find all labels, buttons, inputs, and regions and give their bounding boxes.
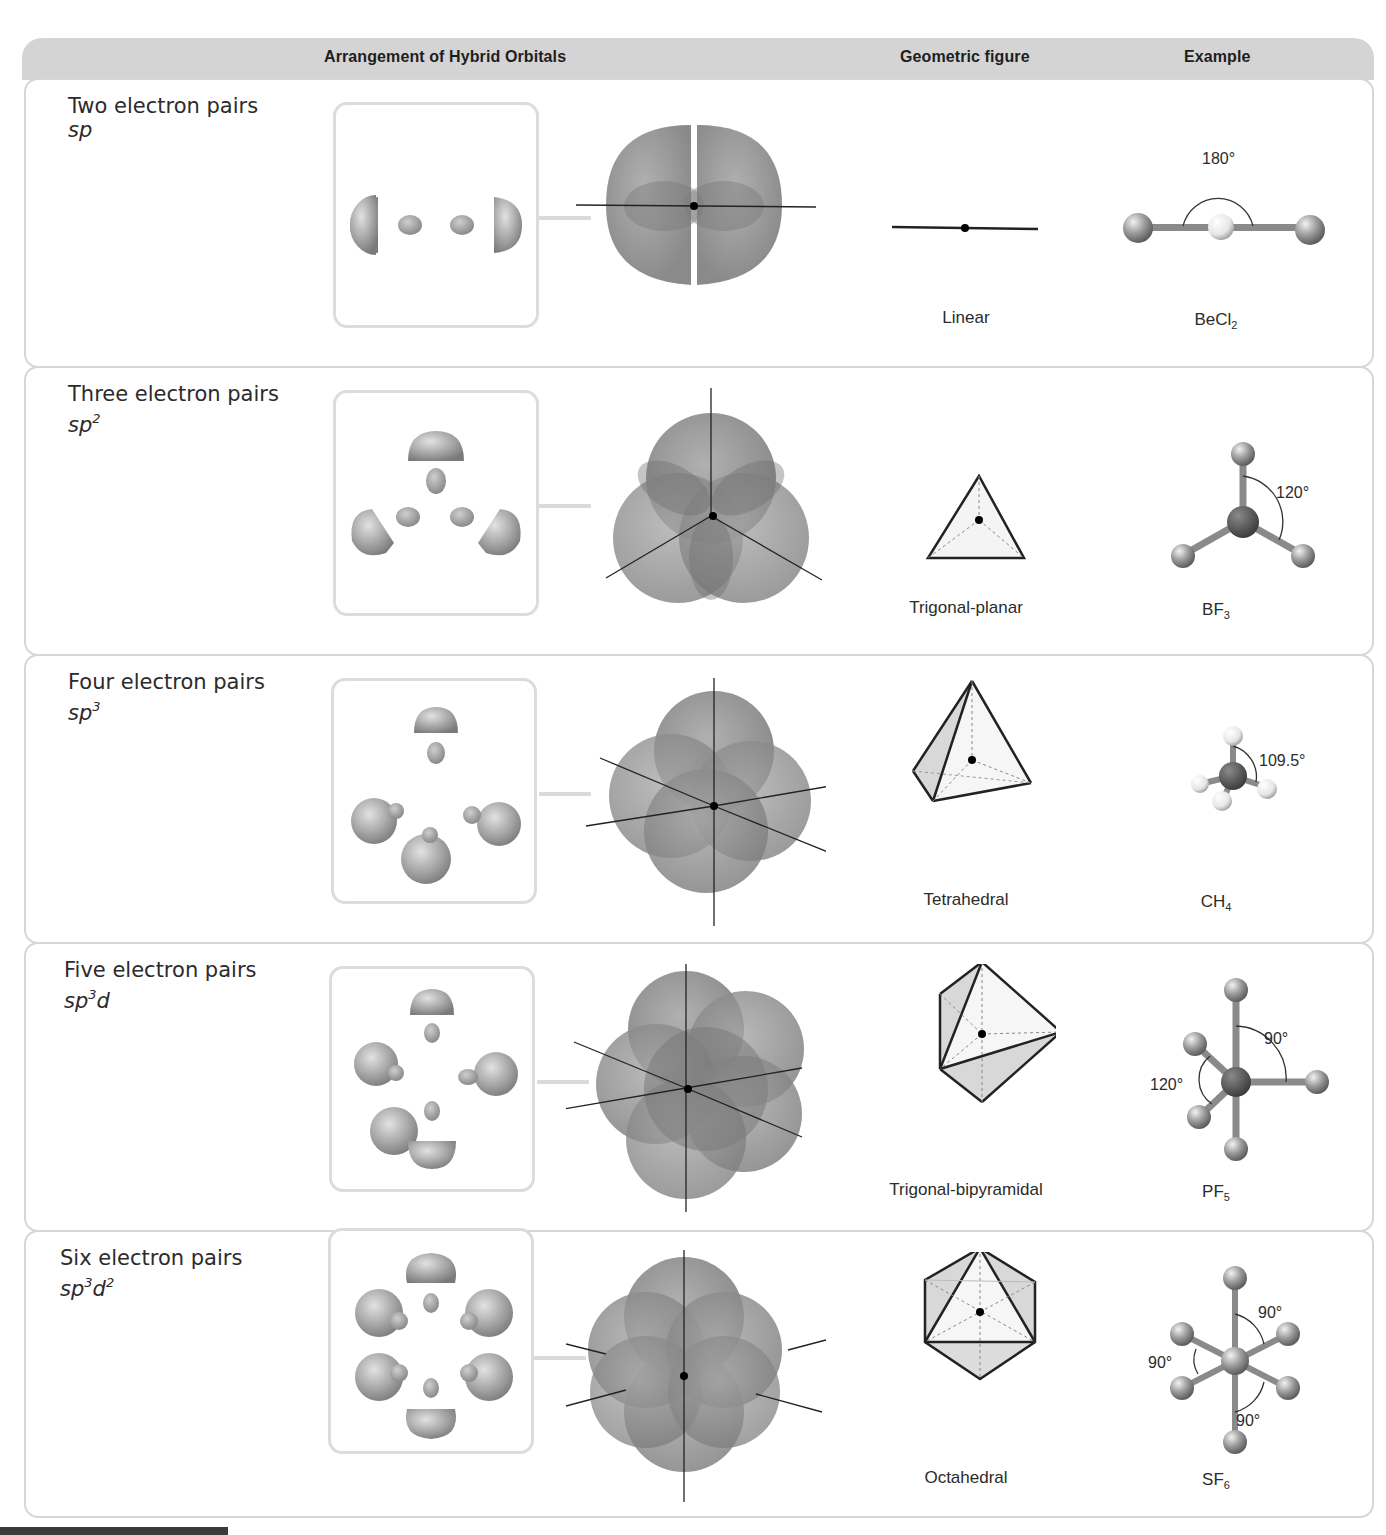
separate-orbitals-panel (331, 678, 537, 904)
svg-text:90°: 90° (1236, 1412, 1260, 1429)
combined-hybrid-orbitals (566, 1232, 826, 1522)
example-formula: BF3 (1126, 600, 1306, 621)
ch4-molecule-icon: 109.5° (1116, 676, 1336, 906)
row-sp3d2: Six electron pairs sp3d2 (24, 1230, 1374, 1518)
sp3d-hybrid-combined-icon (566, 944, 826, 1234)
svg-text:90°: 90° (1148, 1354, 1172, 1371)
sp2-orbital-lobes-icon (336, 393, 536, 613)
example-molecule: 90° 120° (1116, 964, 1336, 1194)
combined-hybrid-orbitals (566, 656, 826, 946)
geometry-label: Tetrahedral (846, 890, 1086, 910)
separate-orbitals-panel (329, 966, 535, 1192)
table-header: Arrangement of Hybrid Orbitals Geometric… (22, 38, 1374, 80)
row-sp: Two electron pairs sp Linear (24, 78, 1374, 368)
trigonal-planar-geometry-icon (876, 388, 1056, 618)
row-title: Four electron pairs (68, 670, 265, 695)
row-title: Six electron pairs (60, 1246, 242, 1271)
footer-label-tab (0, 1527, 228, 1535)
sp3d2-orbital-lobes-icon (331, 1231, 531, 1451)
svg-text:180°: 180° (1202, 150, 1235, 167)
svg-text:90°: 90° (1264, 1030, 1288, 1047)
example-molecule: 90° 90° 90° (1116, 1252, 1336, 1482)
example-formula: CH4 (1126, 892, 1306, 913)
sf6-molecule-icon: 90° 90° 90° (1116, 1252, 1336, 1482)
separate-orbitals-panel (328, 1228, 534, 1454)
bf3-molecule-icon: 120° (1116, 388, 1336, 618)
geometric-figure (876, 964, 1056, 1194)
sp2-hybrid-combined-icon (566, 368, 826, 658)
example-formula: PF5 (1126, 1182, 1306, 1203)
svg-text:90°: 90° (1258, 1304, 1282, 1321)
hybridization-label: sp3d (64, 982, 110, 1014)
geometry-label: Linear (846, 308, 1086, 328)
separate-orbitals-panel (333, 102, 539, 328)
geometric-figure (876, 1252, 1056, 1482)
geometry-label: Trigonal-bipyramidal (846, 1180, 1086, 1200)
hybridization-label: sp (68, 118, 92, 143)
sp-hybrid-combined-icon (566, 80, 826, 370)
sp-orbital-lobes-icon (336, 105, 536, 325)
combined-hybrid-orbitals (566, 944, 826, 1234)
header-example: Example (1184, 48, 1251, 66)
combined-hybrid-orbitals (566, 80, 826, 370)
geometric-figure (876, 676, 1056, 906)
geometry-label: Octahedral (846, 1468, 1086, 1488)
svg-text:120°: 120° (1150, 1076, 1183, 1093)
sp3d-orbital-lobes-icon (332, 969, 532, 1189)
hybridization-label: sp3d2 (60, 1270, 114, 1302)
row-sp3d: Five electron pairs sp3d (24, 942, 1374, 1232)
tetrahedral-geometry-icon (876, 676, 1056, 906)
header-geometric-figure: Geometric figure (900, 48, 1030, 66)
becl2-molecule-icon: 180° (1116, 100, 1336, 330)
geometric-figure (876, 388, 1056, 618)
sp3-hybrid-combined-icon (566, 656, 826, 946)
header-arrangement: Arrangement of Hybrid Orbitals (324, 48, 566, 66)
linear-geometry-icon (876, 100, 1056, 330)
pf5-molecule-icon: 90° 120° (1116, 964, 1336, 1194)
trigonal-bipyramidal-geometry-icon (876, 964, 1056, 1194)
hybridization-label: sp3 (68, 694, 101, 726)
hybridization-label: sp2 (68, 406, 101, 438)
sp3-orbital-lobes-icon (334, 681, 534, 901)
octahedral-geometry-icon (876, 1252, 1056, 1482)
svg-text:109.5°: 109.5° (1259, 752, 1305, 769)
row-title: Two electron pairs (68, 94, 258, 119)
example-formula: BeCl2 (1126, 310, 1306, 331)
example-formula: SF6 (1126, 1470, 1306, 1491)
row-sp2: Three electron pairs sp2 (24, 366, 1374, 656)
row-title: Three electron pairs (68, 382, 279, 407)
geometric-figure (876, 100, 1056, 330)
example-molecule: 109.5° (1116, 676, 1336, 906)
example-molecule: 180° (1116, 100, 1336, 330)
sp3d2-hybrid-combined-icon (566, 1232, 826, 1522)
separate-orbitals-panel (333, 390, 539, 616)
row-sp3: Four electron pairs sp3 (24, 654, 1374, 944)
row-title: Five electron pairs (64, 958, 256, 983)
svg-text:120°: 120° (1276, 484, 1309, 501)
geometry-label: Trigonal-planar (846, 598, 1086, 618)
example-molecule: 120° (1116, 388, 1336, 618)
combined-hybrid-orbitals (566, 368, 826, 658)
